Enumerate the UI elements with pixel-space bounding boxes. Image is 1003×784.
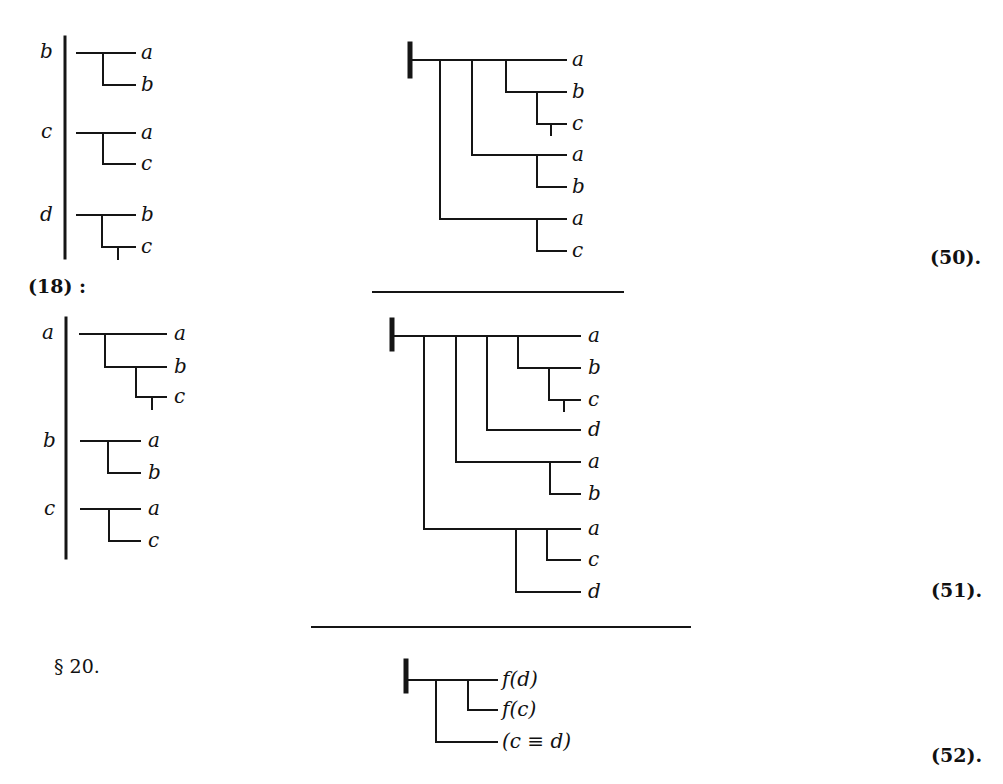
table1-strokes bbox=[65, 37, 135, 259]
table2-label: a bbox=[148, 498, 160, 518]
diagram52-label: (c ≡ d) bbox=[502, 731, 571, 751]
diagram50-label: a bbox=[572, 144, 584, 164]
table2-label: c bbox=[148, 530, 159, 550]
table2-label: c bbox=[174, 386, 185, 406]
table2-label: b bbox=[148, 462, 161, 482]
table2-left-label: a bbox=[42, 322, 54, 342]
diagram50-strokes bbox=[410, 44, 566, 251]
diagram51-label: a bbox=[588, 518, 600, 538]
table1-label: c bbox=[141, 236, 152, 256]
equation-number-52: (52). bbox=[931, 745, 982, 765]
diagram52-label: f(c) bbox=[502, 699, 536, 719]
diagram51-label: d bbox=[588, 581, 601, 601]
equation-number-51: (51). bbox=[931, 580, 982, 600]
diagram50-label: b bbox=[572, 81, 585, 101]
diagram51-label: a bbox=[588, 325, 600, 345]
diagram50-label: a bbox=[572, 208, 584, 228]
section-heading: § 20. bbox=[54, 656, 100, 676]
diagram51-label: c bbox=[588, 389, 599, 409]
reference-label: (18) : bbox=[28, 276, 86, 296]
diagram51-label: c bbox=[588, 549, 599, 569]
table1-label: a bbox=[141, 42, 153, 62]
table1-left-label: b bbox=[40, 41, 53, 61]
table1-label: b bbox=[141, 74, 154, 94]
diagram51-label: b bbox=[588, 483, 601, 503]
diagram50-label: c bbox=[572, 113, 583, 133]
table2-label: a bbox=[174, 323, 186, 343]
table2-left-label: b bbox=[43, 430, 56, 450]
diagram50-label: a bbox=[572, 49, 584, 69]
table1-label: b bbox=[141, 204, 154, 224]
table1-left-label: c bbox=[41, 121, 52, 141]
table2-label: a bbox=[148, 430, 160, 450]
diagram50-label: c bbox=[572, 240, 583, 260]
table2-left-label: c bbox=[44, 498, 55, 518]
diagram51-label: d bbox=[588, 419, 601, 439]
diagram50-label: b bbox=[572, 176, 585, 196]
diagram52-label: f(d) bbox=[502, 669, 538, 689]
table1-label: a bbox=[141, 122, 153, 142]
table2-label: b bbox=[174, 356, 187, 376]
equation-number-50: (50). bbox=[930, 247, 981, 267]
table1-label: c bbox=[141, 153, 152, 173]
diagram51-label: a bbox=[588, 451, 600, 471]
diagram51-label: b bbox=[588, 357, 601, 377]
diagram52-strokes bbox=[406, 661, 497, 742]
table1-left-label: d bbox=[40, 204, 53, 224]
diagram51-strokes bbox=[392, 320, 580, 592]
